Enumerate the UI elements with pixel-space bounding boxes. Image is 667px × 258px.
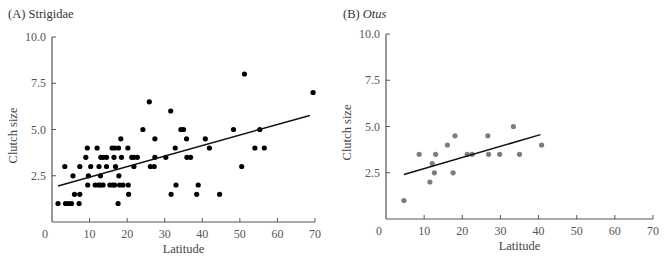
x-tick-label: 50 bbox=[571, 224, 583, 238]
data-point bbox=[70, 173, 75, 178]
x-axis-label: Latitude bbox=[499, 239, 541, 253]
y-tick-label: 10.0 bbox=[359, 27, 380, 41]
x-tick-label: 50 bbox=[234, 227, 246, 241]
data-point bbox=[203, 136, 208, 141]
data-point bbox=[539, 142, 544, 147]
chart-title: (A) Strigidae bbox=[8, 7, 74, 21]
data-point bbox=[69, 201, 74, 206]
data-point bbox=[140, 127, 145, 132]
y-tick-label: 7.5 bbox=[31, 76, 46, 90]
y-axis-label: Clutch size bbox=[6, 107, 20, 163]
y-tick-label: 5.0 bbox=[365, 120, 380, 134]
data-point bbox=[95, 145, 100, 150]
data-point bbox=[152, 164, 157, 169]
data-point bbox=[77, 164, 82, 169]
data-point bbox=[88, 164, 93, 169]
data-point bbox=[168, 108, 173, 113]
x-tick-label: 0 bbox=[376, 224, 382, 238]
chart-panel-strigidae: (A) Strigidae2.55.07.510.001020304050607… bbox=[0, 0, 333, 258]
x-tick-label: 0 bbox=[42, 227, 48, 241]
data-point bbox=[169, 192, 174, 197]
x-tick-label: 60 bbox=[271, 227, 283, 241]
data-point bbox=[118, 136, 123, 141]
data-point bbox=[497, 152, 502, 157]
data-point bbox=[116, 201, 121, 206]
data-point bbox=[152, 136, 157, 141]
scatter-plot-otus: (B) Otus2.55.07.510.0010203040506070Lati… bbox=[333, 0, 667, 258]
data-point bbox=[72, 192, 77, 197]
x-tick-label: 40 bbox=[196, 227, 208, 241]
x-tick-label: 20 bbox=[121, 227, 133, 241]
data-point bbox=[196, 182, 201, 187]
x-tick-label: 30 bbox=[159, 227, 171, 241]
y-axis-label: Clutch size bbox=[340, 104, 354, 160]
y-tick-label: 7.5 bbox=[365, 73, 380, 87]
data-point bbox=[135, 155, 140, 160]
x-tick-label: 40 bbox=[533, 224, 545, 238]
data-point bbox=[452, 133, 457, 138]
data-point bbox=[112, 182, 117, 187]
data-point bbox=[77, 201, 82, 206]
data-point bbox=[83, 155, 88, 160]
data-point bbox=[231, 127, 236, 132]
x-tick-label: 10 bbox=[84, 227, 96, 241]
data-point bbox=[101, 182, 106, 187]
data-point bbox=[104, 164, 109, 169]
data-point bbox=[126, 192, 131, 197]
chart-panel-otus: (B) Otus2.55.07.510.0010203040506070Lati… bbox=[333, 0, 667, 258]
data-points bbox=[55, 71, 315, 206]
chart-title: (B) Otus bbox=[343, 7, 387, 21]
data-point bbox=[116, 173, 121, 178]
data-point bbox=[119, 155, 124, 160]
data-point bbox=[77, 192, 82, 197]
data-point bbox=[517, 152, 522, 157]
x-tick-label: 70 bbox=[647, 224, 659, 238]
data-points bbox=[401, 124, 544, 203]
data-point bbox=[181, 127, 186, 132]
data-point bbox=[125, 145, 130, 150]
data-point bbox=[96, 164, 101, 169]
data-point bbox=[111, 155, 116, 160]
data-point bbox=[62, 164, 67, 169]
data-point bbox=[262, 145, 267, 150]
data-point bbox=[194, 192, 199, 197]
data-point bbox=[207, 145, 212, 150]
data-point bbox=[120, 182, 125, 187]
data-point bbox=[217, 192, 222, 197]
data-point bbox=[485, 133, 490, 138]
data-point bbox=[311, 90, 316, 95]
y-tick-label: 2.5 bbox=[31, 169, 46, 183]
data-point bbox=[242, 71, 247, 76]
data-point bbox=[432, 170, 437, 175]
data-point bbox=[113, 164, 118, 169]
data-point bbox=[252, 145, 257, 150]
data-point bbox=[147, 99, 152, 104]
data-point bbox=[85, 145, 90, 150]
data-point bbox=[427, 179, 432, 184]
x-tick-label: 30 bbox=[494, 224, 506, 238]
y-tick-label: 2.5 bbox=[365, 166, 380, 180]
data-point bbox=[173, 182, 178, 187]
x-axis-label: Latitude bbox=[163, 242, 205, 256]
data-point bbox=[511, 124, 516, 129]
data-point bbox=[173, 145, 178, 150]
data-point bbox=[116, 145, 121, 150]
data-point bbox=[184, 136, 189, 141]
data-point bbox=[417, 152, 422, 157]
data-point bbox=[55, 201, 60, 206]
data-point bbox=[451, 170, 456, 175]
data-point bbox=[188, 155, 193, 160]
x-tick-label: 70 bbox=[309, 227, 321, 241]
data-point bbox=[85, 182, 90, 187]
data-point bbox=[401, 198, 406, 203]
data-point bbox=[445, 142, 450, 147]
data-point bbox=[433, 152, 438, 157]
regression-line bbox=[58, 115, 310, 185]
scatter-plot-strigidae: (A) Strigidae2.55.07.510.001020304050607… bbox=[0, 0, 333, 258]
x-tick-label: 60 bbox=[609, 224, 621, 238]
data-point bbox=[239, 164, 244, 169]
data-point bbox=[104, 155, 109, 160]
x-tick-label: 20 bbox=[456, 224, 468, 238]
y-tick-label: 5.0 bbox=[31, 123, 46, 137]
y-tick-label: 10.0 bbox=[25, 30, 46, 44]
